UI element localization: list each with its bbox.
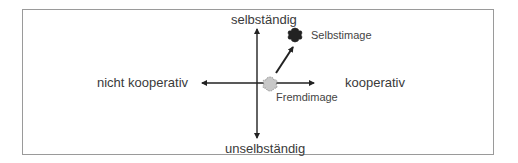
axis-label-left: nicht kooperativ	[97, 76, 188, 89]
fremdimage-marker-icon	[263, 77, 277, 91]
fremdimage-label: Fremdimage	[276, 92, 338, 103]
axis-label-bottom: unselbständig	[225, 142, 305, 155]
axis-label-top: selbständig	[231, 13, 297, 26]
shift-arrow	[276, 47, 293, 73]
axis-label-right: kooperativ	[345, 76, 405, 89]
selbstimage-marker-icon	[288, 28, 302, 42]
selbstimage-label: Selbstimage	[311, 30, 372, 41]
